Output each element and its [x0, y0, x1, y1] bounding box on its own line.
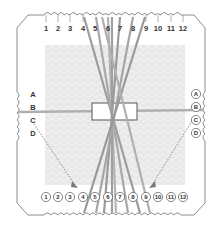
top-label-7: 7 [118, 24, 122, 33]
bottom-label-11: 11 [168, 194, 175, 200]
top-ticks [46, 15, 183, 22]
top-label-3: 3 [68, 24, 72, 33]
top-label-11: 11 [167, 24, 175, 33]
left-label-c: C [30, 116, 36, 125]
top-label-4: 4 [81, 24, 86, 33]
right-label-a: A [194, 91, 199, 97]
top-label-8: 8 [131, 24, 135, 33]
left-label-a: A [30, 90, 36, 99]
top-label-2: 2 [56, 24, 60, 33]
top-label-6: 6 [106, 24, 110, 33]
bottom-label-12: 12 [180, 194, 187, 200]
left-labels: A B C D [30, 90, 36, 138]
top-label-12: 12 [179, 24, 187, 33]
top-label-5: 5 [93, 24, 97, 33]
top-label-1: 1 [44, 24, 48, 33]
right-label-b: B [194, 104, 199, 110]
left-label-d: D [30, 129, 36, 138]
right-label-c: C [194, 117, 199, 123]
top-labels: 1 2 3 4 5 6 7 8 9 10 11 12 [44, 24, 187, 33]
top-label-9: 9 [144, 24, 148, 33]
top-label-10: 10 [154, 24, 162, 33]
card-diagram: 1 2 3 4 5 6 7 8 9 10 11 12 1 2 3 4 5 6 7… [0, 0, 224, 230]
right-label-d: D [194, 130, 199, 136]
bottom-label-10: 10 [155, 194, 162, 200]
left-label-b: B [30, 103, 36, 112]
